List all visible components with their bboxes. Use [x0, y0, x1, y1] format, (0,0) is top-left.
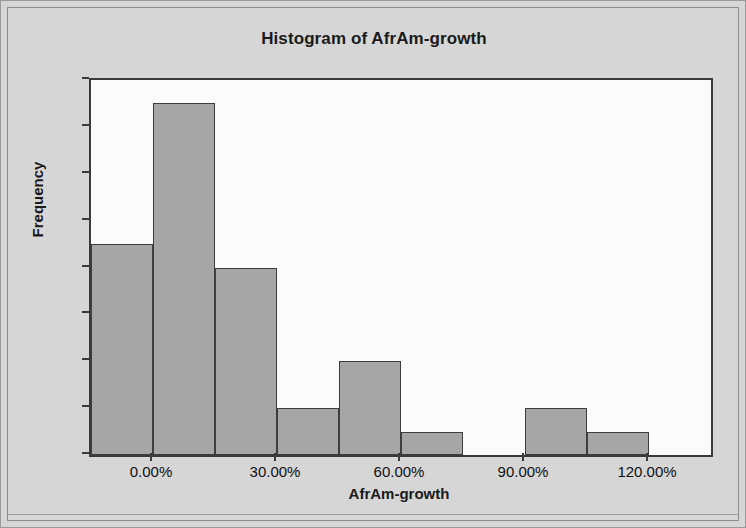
- figure-bottom-rule: [8, 514, 738, 515]
- x-tick-mark: [274, 453, 276, 461]
- y-tick-mark: [82, 265, 89, 267]
- bars-layer: [91, 80, 711, 455]
- histogram-bar: [339, 361, 401, 455]
- y-tick-mark: [82, 124, 89, 126]
- x-axis-title: AfrAm-growth: [89, 485, 709, 502]
- x-tick-mark: [646, 453, 648, 461]
- x-tick-label: 0.00%: [91, 463, 211, 480]
- histogram-bar: [587, 432, 649, 455]
- histogram-bar: [525, 408, 587, 455]
- x-tick-mark: [150, 453, 152, 461]
- histogram-figure: Histogram of AfrAm-growth Frequency 0246…: [0, 0, 746, 528]
- y-tick-mark: [82, 77, 89, 79]
- histogram-bar: [277, 408, 339, 455]
- y-tick-mark: [82, 218, 89, 220]
- x-tick-mark: [398, 453, 400, 461]
- histogram-bar: [153, 103, 215, 455]
- y-tick-mark: [82, 405, 89, 407]
- x-tick-mark: [522, 453, 524, 461]
- chart-title: Histogram of AfrAm-growth: [1, 29, 746, 49]
- histogram-bar: [401, 432, 463, 455]
- x-tick-label: 60.00%: [339, 463, 459, 480]
- histogram-bar: [91, 244, 153, 455]
- histogram-bar: [215, 268, 277, 456]
- y-tick-mark: [82, 171, 89, 173]
- y-tick-mark: [82, 311, 89, 313]
- x-tick-label: 120.00%: [587, 463, 707, 480]
- x-tick-label: 30.00%: [215, 463, 335, 480]
- y-tick-mark: [82, 452, 89, 454]
- y-tick-mark: [82, 358, 89, 360]
- x-tick-label: 90.00%: [463, 463, 583, 480]
- plot-area: [89, 78, 713, 457]
- y-axis: 0246810121416: [1, 1, 89, 528]
